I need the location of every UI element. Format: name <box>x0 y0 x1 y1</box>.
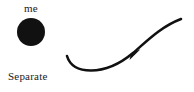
diagram-figure: me Separate me Extended <box>0 0 194 92</box>
s-curve-path <box>67 19 181 71</box>
s-curve-graphic <box>0 0 194 92</box>
